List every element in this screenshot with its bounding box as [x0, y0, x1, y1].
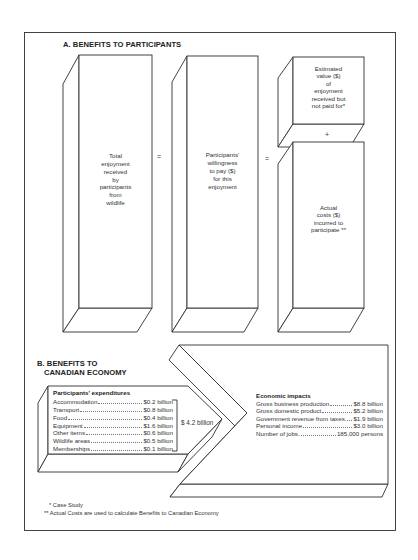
expenditure-value: $0.4 billion: [143, 414, 173, 422]
section-b-title-line1: B. BENEFITS TO: [37, 359, 97, 368]
box-text-line: wildlife: [79, 199, 152, 207]
equals-sign-1: =: [157, 153, 161, 160]
expenditure-label: Food: [53, 414, 67, 422]
expenditure-row: Accommodation $0.2 billion: [53, 398, 173, 406]
expenditure-label: Other items: [53, 429, 85, 437]
economic-impacts-title: Economic impacts: [256, 392, 383, 400]
dot-leader: [330, 405, 352, 406]
box-text-line: Estimated: [293, 65, 364, 72]
expenditure-row: Wildlife areas $0.5 billion: [53, 437, 173, 445]
box-text-line: not paid for*: [293, 102, 364, 109]
expenditure-label: Accommodation: [53, 398, 97, 406]
dot-leader: [303, 427, 352, 428]
box-text-line: Participants': [187, 151, 258, 159]
expenditure-row: Other items $0.6 billion: [53, 429, 173, 437]
impact-value: $1.9 billion: [353, 415, 383, 422]
expenditure-value: $0.1 billion: [143, 445, 173, 453]
impact-value: $5.2 billion: [353, 407, 383, 414]
box-text-line: to pay ($): [187, 167, 258, 175]
expenditure-label: Transport: [53, 406, 79, 414]
box-text-line: Actual: [293, 204, 364, 211]
dot-leader: [347, 420, 352, 421]
expenditure-row: Food $0.4 billion: [53, 414, 173, 422]
impact-label: Personal income: [256, 422, 302, 429]
impact-row: Number of jobs. 185,000 persons: [256, 430, 383, 437]
box-text-line: willingness: [187, 159, 258, 167]
impact-label: Gross business production: [256, 400, 329, 407]
arrow-bottom-face: [38, 454, 188, 472]
footnote-case-study: * Case Study: [49, 502, 83, 508]
box-text-line: costs ($): [293, 211, 364, 218]
expenditure-value: $0.2 billion: [143, 398, 173, 406]
box-willingness-shape: [172, 56, 258, 332]
box-text-line: by: [79, 176, 152, 184]
box-estimated-value-text: Estimated value ($) of enjoyment receive…: [293, 65, 364, 109]
expenditure-label: Equipment: [53, 422, 83, 430]
box-text-line: participate **: [293, 226, 364, 233]
section-b-title-line2: CANADIAN ECONOMY: [44, 368, 127, 377]
impact-value: $8.8 billion: [353, 400, 383, 407]
box-text-line: Total: [79, 152, 152, 160]
economic-impacts-table: Economic impacts Gross business producti…: [256, 392, 383, 437]
plus-sign: +: [325, 131, 329, 138]
box-text-line: from: [79, 191, 152, 199]
expenditure-label: Memberships: [53, 445, 90, 453]
infographic-page: A. BENEFITS TO PARTICIPANTS Total enjoym…: [0, 0, 418, 560]
dot-leader: [80, 411, 142, 412]
dot-leader: [84, 427, 143, 428]
impact-row: Personal income $3.0 billion: [256, 422, 383, 429]
dot-leader: [86, 434, 142, 435]
impact-label: Gross domestic product: [256, 407, 321, 414]
dot-leader: [322, 412, 352, 413]
box-text-line: enjoyment: [293, 87, 364, 94]
expenditures-total: $ 4.2 billion: [181, 419, 213, 427]
impact-label: Number of jobs.: [256, 430, 300, 437]
box-total-enjoyment-text: Total enjoyment received by participants…: [79, 152, 152, 207]
box-actual-costs-shape: [278, 142, 364, 332]
impact-row: Government revenue from taxes. $1.9 bill…: [256, 415, 383, 422]
chevron-bottom-face: [170, 484, 388, 497]
box3b-bottom-face: [278, 308, 364, 332]
expenditure-row: Memberships $0.1 billion: [53, 445, 173, 453]
dot-leader: [91, 442, 142, 443]
expenditure-value: $0.5 billion: [143, 437, 173, 445]
box-actual-costs-text: Actual costs ($) incurred to participate…: [293, 204, 364, 233]
box2-bottom-face: [172, 308, 258, 332]
impact-label: Government revenue from taxes.: [256, 415, 346, 422]
box-text-line: enjoyment: [187, 183, 258, 191]
footnote-actual-costs: ** Actual Costs are used to calculate Be…: [44, 510, 219, 516]
box-text-line: for this: [187, 175, 258, 183]
expenditure-value: $1.6 billion: [143, 422, 173, 430]
box-text-line: received but: [293, 95, 364, 102]
box-text-line: of: [293, 80, 364, 87]
expenditures-table: Participants' expenditures Accommodation…: [53, 389, 173, 453]
expenditure-value: $0.6 billion: [143, 429, 173, 437]
equals-sign-2: =: [265, 155, 269, 162]
dot-leader: [98, 403, 142, 404]
dot-leader: [68, 419, 142, 420]
expenditures-title: Participants' expenditures: [53, 389, 173, 397]
impact-value: 185,000 persons: [337, 430, 383, 437]
box-text-line: participants: [79, 183, 152, 191]
box-text-line: received: [79, 168, 152, 176]
expenditure-row: Transport $0.8 billion: [53, 406, 173, 414]
impact-row: Gross business production $8.8 billion: [256, 400, 383, 407]
box2-side-face: [172, 56, 187, 332]
box1-bottom-face: [63, 308, 152, 332]
dot-leader: [91, 450, 142, 451]
section-a-title: A. BENEFITS TO PARTICIPANTS: [63, 40, 181, 49]
expenditure-value: $0.8 billion: [143, 406, 173, 414]
impact-value: $3.0 billion: [353, 422, 383, 429]
box-text-line: enjoyment: [79, 160, 152, 168]
box-text-line: incurred to: [293, 219, 364, 226]
box-text-line: value ($): [293, 72, 364, 79]
box1-side-face: [63, 55, 79, 332]
box3b-side-face: [278, 142, 293, 332]
expenditure-label: Wildlife areas: [53, 437, 90, 445]
expenditure-row: Equipment $1.6 billion: [53, 422, 173, 430]
dot-leader: [301, 435, 336, 436]
impact-row: Gross domestic product $5.2 billion: [256, 407, 383, 414]
box-willingness-text: Participants' willingness to pay ($) for…: [187, 151, 258, 191]
